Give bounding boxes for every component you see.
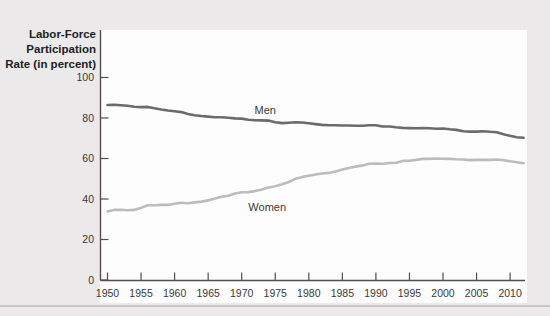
x-tick-label: 1990 — [364, 287, 388, 299]
y-tick-label: 100 — [76, 71, 94, 83]
x-tick-label: 1955 — [129, 287, 153, 299]
x-tick-label: 1970 — [230, 287, 254, 299]
x-tick-label: 1950 — [96, 287, 120, 299]
x-tick-label: 2005 — [465, 287, 489, 299]
y-tick-label: 0 — [88, 274, 94, 286]
men-label: Men — [254, 104, 275, 116]
men-line — [108, 105, 524, 138]
x-tick-label: 1995 — [398, 287, 422, 299]
women-label: Women — [248, 201, 286, 213]
x-tick-label: 1960 — [163, 287, 187, 299]
y-tick-label: 60 — [82, 152, 94, 164]
x-tick-label: 1975 — [264, 287, 288, 299]
bottom-divider-line — [0, 305, 550, 307]
x-tick-label: 2010 — [498, 287, 522, 299]
figure-canvas: Labor-Force Participation Rate (in perce… — [0, 0, 550, 316]
x-tick-label: 1965 — [196, 287, 220, 299]
x-tick-label: 1985 — [331, 287, 355, 299]
women-line — [108, 159, 524, 212]
y-tick-label: 80 — [82, 112, 94, 124]
x-tick-label: 2000 — [431, 287, 455, 299]
y-tick-label: 20 — [82, 233, 94, 245]
lfpr-line-chart: 0204060801001950195519601965197019751980… — [0, 0, 550, 316]
x-tick-label: 1980 — [297, 287, 321, 299]
y-tick-label: 40 — [82, 193, 94, 205]
